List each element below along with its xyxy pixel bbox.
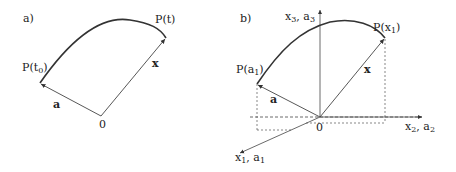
end-point-label: P(t): [155, 13, 175, 26]
diagram-canvas: a) P(t0) P(t) a x 0 b) P(a1) P(x1) a: [0, 0, 456, 172]
origin-label: 0: [316, 121, 323, 134]
end-point-label: P(x1): [373, 21, 400, 35]
vector-x-arrow: [320, 39, 384, 117]
vector-x-label: x: [152, 57, 159, 70]
origin-label: 0: [99, 118, 106, 131]
vector-x-arrow: [101, 39, 165, 116]
axis-vertical-label: x3, a3: [285, 10, 315, 24]
vector-a-arrow: [41, 84, 101, 116]
vector-x-label: x: [364, 63, 371, 76]
start-point-label: P(t0): [22, 61, 48, 75]
vector-a-arrow: [258, 85, 320, 117]
curve-path: [40, 19, 166, 83]
axis-oblique-label: x1, a1: [235, 151, 265, 165]
panel-b: b) P(a1) P(x1) a x 0 x3, a3 x2, a2 x1, a…: [235, 10, 435, 165]
vector-a-label: a: [53, 98, 60, 111]
axis-oblique: [240, 117, 320, 153]
panel-a: a) P(t0) P(t) a x 0: [22, 12, 175, 131]
vector-a-label: a: [270, 93, 277, 106]
panel-a-label: a): [23, 12, 34, 25]
panel-b-label: b): [240, 12, 251, 25]
start-point-label: P(a1): [236, 63, 264, 77]
axis-horizontal-label: x2, a2: [405, 120, 435, 134]
